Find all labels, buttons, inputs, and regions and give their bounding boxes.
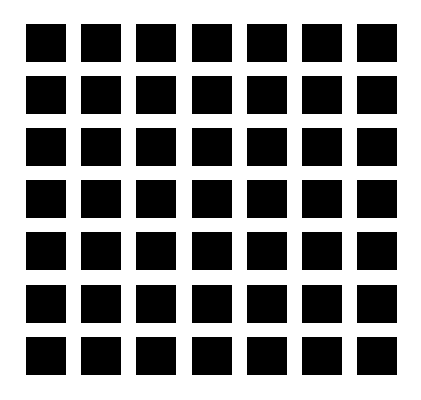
grid-square (136, 76, 176, 114)
grid-square (247, 24, 287, 62)
grid-square (357, 128, 397, 166)
grid-square (247, 337, 287, 375)
grid-square (81, 180, 121, 218)
grid-square (192, 285, 232, 323)
grid-square (26, 128, 66, 166)
grid-square (302, 24, 342, 62)
grid-square (247, 76, 287, 114)
grid-square (192, 337, 232, 375)
grid-square (136, 128, 176, 166)
grid-square (81, 128, 121, 166)
grid-square (192, 76, 232, 114)
grid-square (136, 285, 176, 323)
grid-square (26, 285, 66, 323)
grid-square (192, 232, 232, 270)
grid-square (357, 76, 397, 114)
grid-square (81, 232, 121, 270)
grid-square (136, 180, 176, 218)
grid-square (26, 232, 66, 270)
grid-square (136, 24, 176, 62)
grid-square (247, 128, 287, 166)
grid-square (357, 180, 397, 218)
grid-square (81, 24, 121, 62)
grid-square (302, 232, 342, 270)
grid-square (26, 337, 66, 375)
grid-square (247, 285, 287, 323)
hermann-grid (0, 0, 421, 400)
grid-square (192, 180, 232, 218)
grid-square (302, 180, 342, 218)
grid-square (357, 232, 397, 270)
grid-square (302, 285, 342, 323)
grid-square (302, 337, 342, 375)
grid-square (136, 232, 176, 270)
grid-square (357, 285, 397, 323)
grid-square (192, 24, 232, 62)
grid-square (26, 76, 66, 114)
grid-square (26, 180, 66, 218)
grid-square (136, 337, 176, 375)
grid-square (81, 285, 121, 323)
grid-square (357, 337, 397, 375)
grid-square (247, 180, 287, 218)
grid-square (26, 24, 66, 62)
grid-square (192, 128, 232, 166)
grid-square (302, 128, 342, 166)
grid-square (302, 76, 342, 114)
grid-square (81, 337, 121, 375)
grid-square (247, 232, 287, 270)
grid-square (81, 76, 121, 114)
grid-square (357, 24, 397, 62)
